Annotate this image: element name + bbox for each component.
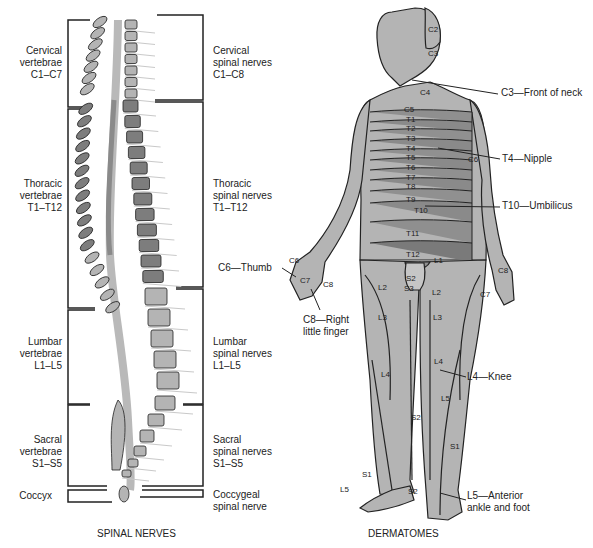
label-line: S1–S5 (4, 458, 62, 470)
label-line: T1–T12 (4, 202, 62, 214)
label-sacral-vertebrae: Sacral vertebrae S1–S5 (4, 434, 62, 470)
label-line: L5—Anterior (467, 490, 530, 502)
segment-t3: T3 (406, 134, 415, 143)
label-line: spinal nerves (213, 446, 272, 458)
label-line: spinal nerves (213, 57, 272, 69)
label-sacral-nerves: Sacral spinal nerves S1–S5 (213, 434, 272, 470)
label-line: little finger (303, 326, 349, 338)
segment-c8-hand: C8 (323, 280, 333, 289)
segment-t9: T9 (406, 195, 415, 204)
segment-t8: T8 (406, 182, 415, 191)
label-line: Thoracic (4, 178, 62, 190)
label-line: Coccygeal (213, 489, 267, 501)
label-line: L1–L5 (213, 360, 272, 372)
label-line: T1–T12 (213, 202, 272, 214)
right-arm (290, 100, 370, 300)
label-coccyx: Coccyx (4, 490, 52, 502)
caption-dermatomes: DERMATOMES (368, 528, 439, 539)
segment-l4-right: L4 (381, 370, 390, 379)
segment-t12: T12 (406, 250, 420, 259)
segment-l5-left: L5 (441, 394, 450, 403)
label-line: Lumbar (4, 336, 62, 348)
segment-c3: C3 (428, 49, 438, 58)
segment-l3-left: L3 (433, 313, 442, 322)
label-line: Cervical (213, 45, 272, 57)
segment-c2: C2 (428, 25, 438, 34)
segment-c6-hand: C6 (289, 256, 299, 265)
segment-l2-right: L2 (378, 283, 387, 292)
label-line: vertebrae (4, 57, 62, 69)
segment-l4-left: L4 (434, 357, 443, 366)
label-lumbar-vertebrae: Lumbar vertebrae L1–L5 (4, 336, 62, 372)
label-line: S1–S5 (213, 458, 272, 470)
segment-s1-foot: S1 (362, 470, 372, 479)
label-thoracic-nerves: Thoracic spinal nerves T1–T12 (213, 178, 272, 214)
label-line: Cervical (4, 45, 62, 57)
callout-l4-knee: L4—Knee (467, 371, 511, 383)
segment-t5: T5 (406, 153, 415, 162)
segment-t11: T11 (406, 229, 419, 238)
label-line: C8—Right (303, 314, 349, 326)
caption-spinal-nerves: SPINAL NERVES (97, 528, 176, 539)
label-line: L1–L5 (4, 360, 62, 372)
segment-l3-right: L3 (378, 313, 387, 322)
label-line: ankle and foot (467, 502, 530, 514)
segment-c5: C5 (404, 105, 414, 114)
callout-c3-front-of-neck: C3—Front of neck (501, 87, 582, 99)
label-line: spinal nerve (213, 501, 267, 513)
label-line: Thoracic (213, 178, 272, 190)
label-line: spinal nerves (213, 348, 272, 360)
label-line: vertebrae (4, 446, 62, 458)
segment-l1: L1 (434, 256, 443, 265)
segment-l5-foot: L5 (340, 485, 349, 494)
label-line: vertebrae (4, 190, 62, 202)
label-cervical-vertebrae: Cervical vertebrae C1–C7 (4, 45, 62, 81)
callout-l5-ankle-foot: L5—Anterior ankle and foot (467, 490, 530, 514)
segment-s2: S2 (406, 274, 416, 283)
segment-t1: T1 (406, 115, 415, 124)
callout-t10-umbilicus: T10—Umbilicus (502, 200, 573, 212)
segment-c7-left: C7 (480, 290, 490, 299)
segment-c8-left: C8 (498, 266, 508, 275)
label-line: vertebrae (4, 348, 62, 360)
segment-s2-leg: S2 (411, 413, 421, 422)
callout-t4-nipple: T4—Nipple (502, 153, 552, 165)
callout-c8-little-finger: C8—Right little finger (303, 314, 349, 338)
segment-s3: S3 (404, 284, 414, 293)
label-line: C1–C7 (4, 69, 62, 81)
label-lumbar-nerves: Lumbar spinal nerves L1–L5 (213, 336, 272, 372)
segment-t10: T10 (414, 206, 428, 215)
segment-c7-hand: C7 (300, 276, 310, 285)
segment-l2-left: L2 (432, 288, 441, 297)
segment-c4: C4 (420, 88, 430, 97)
segment-t7: T7 (406, 173, 415, 182)
label-line: C1–C8 (213, 69, 272, 81)
segment-s1-leg: S1 (450, 442, 460, 451)
label-line: spinal nerves (213, 190, 272, 202)
segment-t4: T4 (406, 144, 415, 153)
segment-s2-foot: S2 (408, 487, 418, 496)
label-thoracic-vertebrae: Thoracic vertebrae T1–T12 (4, 178, 62, 214)
label-line: Coccyx (4, 490, 52, 502)
segment-t2: T2 (406, 124, 415, 133)
label-cervical-nerves: Cervical spinal nerves C1–C8 (213, 45, 272, 81)
segment-c6: C6 (468, 155, 478, 164)
label-line: Sacral (4, 434, 62, 446)
segment-t6: T6 (406, 163, 415, 172)
label-coccygeal-nerve: Coccygeal spinal nerve (213, 489, 267, 513)
label-line: Lumbar (213, 336, 272, 348)
label-line: Sacral (213, 434, 272, 446)
callout-c6-thumb: C6—Thumb (218, 262, 272, 274)
